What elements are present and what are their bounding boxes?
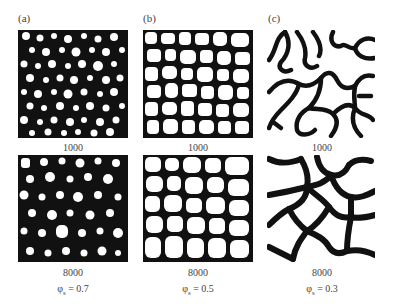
morphology-network bbox=[267, 30, 377, 138]
morphology-droplets bbox=[18, 30, 128, 138]
panel-c-1000 bbox=[267, 30, 377, 138]
panel-a-phi: φs = 0.7 bbox=[18, 283, 128, 297]
panel-a-8000 bbox=[18, 155, 128, 262]
panel-c-time-1000: 1000 bbox=[267, 142, 377, 153]
panel-b-1000 bbox=[143, 30, 253, 138]
panel-c-phi: φs = 0.3 bbox=[267, 283, 377, 297]
morphology-network-coarsened bbox=[267, 155, 377, 262]
panel-c-tag: (c) bbox=[268, 12, 280, 24]
panel-c-time-8000: 8000 bbox=[267, 267, 377, 278]
panel-a-tag: (a) bbox=[18, 12, 30, 24]
panel-b-8000 bbox=[143, 155, 253, 262]
panel-a-time-1000: 1000 bbox=[18, 142, 128, 153]
morphology-cellular bbox=[143, 30, 253, 138]
panel-b-time-1000: 1000 bbox=[143, 142, 253, 153]
panel-b-tag: (b) bbox=[143, 12, 156, 24]
panel-c-8000 bbox=[267, 155, 377, 262]
panel-b-time-8000: 8000 bbox=[143, 267, 253, 278]
panel-a-time-8000: 8000 bbox=[18, 267, 128, 278]
panel-b-phi: φs = 0.5 bbox=[143, 283, 253, 297]
morphology-droplets-coarsened bbox=[18, 155, 128, 262]
panel-a-1000 bbox=[18, 30, 128, 138]
morphology-cellular-coarsened bbox=[143, 155, 253, 262]
